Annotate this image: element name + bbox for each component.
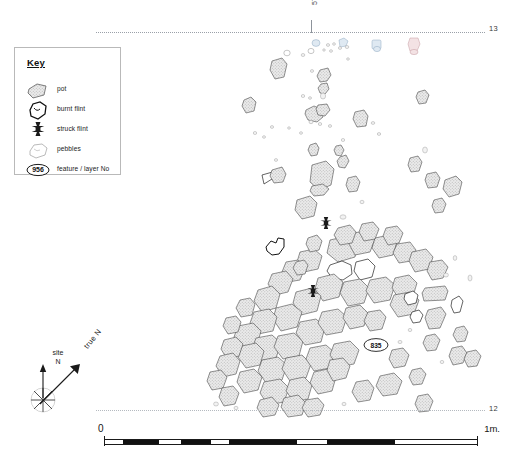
grid-line-top — [96, 32, 485, 33]
burnt-flint-icon — [25, 100, 51, 120]
scale-segment — [229, 440, 297, 444]
grid-label-57: 57 — [311, 0, 318, 5]
scale-end-tick-left — [104, 436, 105, 446]
grid-tick-57 — [311, 20, 312, 33]
scale-bar-track — [104, 439, 478, 445]
key-label-struck-flint: struck flint — [57, 125, 88, 132]
key-legend: Key pot burnt flint — [14, 47, 121, 175]
scale-segment — [123, 440, 159, 444]
stone-spread-835 — [207, 222, 481, 417]
pebbles-icon — [25, 140, 51, 160]
site-north-line1: site — [53, 349, 64, 356]
scale-segment — [327, 440, 395, 444]
true-north-arrow — [40, 364, 80, 404]
pot-icon — [25, 80, 51, 100]
key-item-pot: pot — [15, 80, 120, 100]
key-item-pebbles: pebbles — [15, 140, 120, 160]
key-label-burnt-flint: burnt flint — [57, 105, 85, 112]
key-label-feature-number: feature / layer No — [57, 165, 109, 172]
grid-label-12: 12 — [489, 404, 498, 413]
struck-flint-icon — [25, 120, 51, 140]
scale-segment — [181, 440, 211, 444]
grid-label-13: 13 — [489, 24, 498, 33]
scale-bar: 0 1m. — [104, 423, 484, 451]
key-item-struck-flint: struck flint — [15, 120, 120, 140]
site-plan-figure: 835 57 13 12 Key pot — [0, 0, 516, 455]
burnt-flint-shape — [266, 238, 284, 255]
site-north-arrow — [40, 364, 46, 398]
key-item-burnt-flint: burnt flint — [15, 100, 120, 120]
scale-min-label: 0 — [98, 423, 104, 434]
grid-line-bottom — [96, 410, 485, 411]
site-north-line2: N — [55, 358, 60, 365]
key-feature-example-number: 956 — [32, 166, 44, 173]
struck-flint-marker-upper — [320, 217, 331, 229]
key-label-pebbles: pebbles — [57, 145, 81, 152]
north-arrow-group: site N true N — [18, 342, 110, 422]
feature-label-835-text: 835 — [370, 342, 381, 349]
site-north-label: site N — [48, 349, 68, 366]
feature-number-icon: 956 — [25, 160, 51, 180]
key-label-pot: pot — [57, 85, 66, 92]
key-item-feature-number: 956 feature / layer No — [15, 160, 120, 180]
scatter-upper — [242, 38, 462, 219]
key-title: Key — [27, 57, 45, 68]
scale-end-tick-right — [477, 436, 478, 446]
scale-max-label: 1m. — [484, 423, 500, 434]
feature-label-835: 835 — [364, 339, 388, 352]
